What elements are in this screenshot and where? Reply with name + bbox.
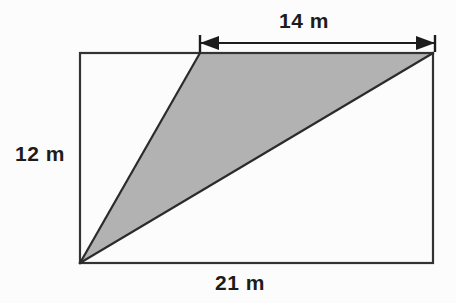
- dimension-label-bottom: 21 m: [215, 272, 265, 293]
- diagram-canvas: [0, 0, 456, 303]
- geometry-diagram: 14 m 12 m 21 m: [0, 0, 456, 303]
- dimension-label-left: 12 m: [15, 143, 65, 164]
- dimension-label-top: 14 m: [279, 10, 329, 31]
- arrowhead-right-icon: [416, 36, 435, 50]
- arrowhead-left-icon: [200, 36, 219, 50]
